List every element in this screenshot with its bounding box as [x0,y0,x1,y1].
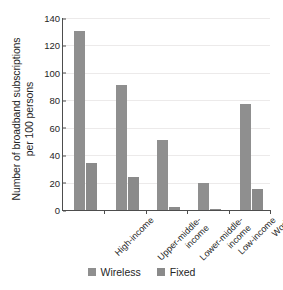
y-axis-tick: 20 [49,177,63,188]
bar-wireless-2 [157,140,168,210]
legend-label: Wireless [101,266,141,278]
y-axis-tick: 0 [55,205,63,216]
bar-wireless-4 [240,104,251,210]
category-label-line: High-income [112,215,155,258]
y-axis-tick: 100 [44,67,63,78]
legend-label: Fixed [170,266,196,278]
x-axis-tick-mark [104,210,105,214]
x-axis-category-label: High-income [112,215,155,258]
bar-fixed-0 [86,163,97,210]
legend-swatch-icon [157,268,165,276]
gridline [63,100,270,101]
x-axis-tick-mark [270,210,271,214]
bar-fixed-1 [128,177,139,210]
y-axis-title: Number of broadband subscriptions per 10… [8,19,38,219]
y-axis-tick-mark [63,100,66,101]
x-axis-tick-mark [146,210,147,214]
y-axis-tick-mark [63,45,66,46]
bar-fixed-2 [169,207,180,210]
y-axis-tick: 80 [49,95,63,106]
y-axis-tick-label: 60 [49,122,63,133]
y-axis-tick-label: 40 [49,150,63,161]
x-axis-category-label: Upper-middle-income [156,215,211,270]
gridline [63,73,270,74]
x-axis-tick-mark [229,210,230,214]
bar-wireless-1 [116,85,127,210]
y-axis-tick-mark [63,155,66,156]
y-axis-tick-label: 80 [49,95,63,106]
gridline [63,45,270,46]
plot-area: 020406080100120140 [63,18,270,210]
y-axis-tick-mark [63,183,66,184]
y-axis-tick: 40 [49,150,63,161]
bar-wireless-0 [74,31,85,210]
x-axis-line [62,210,271,211]
y-axis-tick-label: 20 [49,177,63,188]
bar-fixed-3 [210,209,221,210]
y-axis-tick-label: 120 [44,40,63,51]
chart-legend: WirelessFixed [0,266,283,278]
y-axis-tick: 60 [49,122,63,133]
bar-wireless-3 [198,183,209,210]
y-axis-tick-mark [63,73,66,74]
y-axis-tick: 140 [44,13,63,24]
y-axis-tick-label: 0 [55,205,63,216]
y-axis-tick-mark [63,210,66,211]
y-axis-tick-mark [63,128,66,129]
y-axis-tick: 120 [44,40,63,51]
bar-fixed-4 [252,189,263,210]
legend-item-fixed[interactable]: Fixed [157,266,196,278]
y-axis-title-line-2: per 100 persons [23,82,36,156]
y-axis-tick-label: 100 [44,67,63,78]
x-axis-tick-mark [187,210,188,214]
y-axis-tick-mark [63,18,66,19]
legend-swatch-icon [88,268,96,276]
y-axis-title-line-1: Number of broadband subscriptions [10,37,23,200]
gridline [63,18,270,19]
broadband-subscriptions-bar-chart: Number of broadband subscriptions per 10… [0,0,283,290]
y-axis-tick-label: 140 [44,13,63,24]
legend-item-wireless[interactable]: Wireless [88,266,141,278]
